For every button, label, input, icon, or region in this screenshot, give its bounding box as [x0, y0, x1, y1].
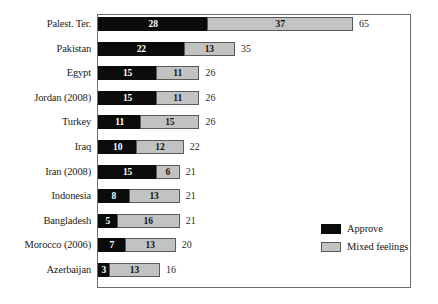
bar-segment-approve: 11 — [98, 115, 141, 129]
chart-row: Indonesia81321 — [0, 189, 438, 214]
category-label: Jordan (2008) — [0, 91, 91, 105]
bar-total-label: 22 — [190, 140, 200, 154]
bar-value-mixed-feelings: 13 — [130, 265, 139, 275]
bar-value-approve: 28 — [149, 19, 158, 29]
bar-value-mixed-feelings: 16 — [144, 216, 153, 226]
stacked-bar: 2837 — [98, 17, 354, 31]
bar-segment-approve: 5 — [98, 214, 118, 228]
chart-legend: Approve Mixed feelings — [321, 221, 408, 257]
bar-segment-approve: 15 — [98, 66, 157, 80]
bar-value-mixed-feelings: 11 — [173, 93, 182, 103]
legend-item-approve: Approve — [321, 221, 408, 236]
stacked-bar: 2213 — [98, 42, 236, 56]
legend-label-approve: Approve — [347, 223, 383, 235]
bar-value-approve: 3 — [102, 265, 107, 275]
bar-value-mixed-feelings: 15 — [165, 117, 174, 127]
category-label: Egypt — [0, 66, 91, 80]
bar-value-approve: 11 — [115, 117, 124, 127]
stacked-bar: 1511 — [98, 91, 200, 105]
bar-total-label: 35 — [241, 42, 251, 56]
stacked-bar: 1012 — [98, 140, 185, 154]
bar-segment-mixed-feelings: 12 — [136, 140, 183, 154]
bar-value-approve: 15 — [123, 167, 132, 177]
stacked-bar: 516 — [98, 214, 181, 228]
category-label: Turkey — [0, 115, 91, 129]
bar-segment-mixed-feelings: 6 — [156, 165, 180, 179]
legend-label-mixed-feelings: Mixed feelings — [347, 241, 408, 253]
bar-segment-approve: 28 — [98, 17, 208, 31]
bar-total-label: 65 — [359, 17, 369, 31]
chart-row: Iran (2008)15621 — [0, 165, 438, 190]
bar-value-mixed-feelings: 12 — [155, 142, 164, 152]
bar-value-approve: 7 — [109, 240, 114, 250]
bar-value-mixed-feelings: 13 — [205, 44, 214, 54]
bar-value-approve: 15 — [123, 68, 132, 78]
bar-value-mixed-feelings: 11 — [173, 68, 182, 78]
category-label: Pakistan — [0, 42, 91, 56]
bar-segment-approve: 22 — [98, 42, 185, 56]
bar-segment-approve: 10 — [98, 140, 137, 154]
bar-value-mixed-feelings: 13 — [146, 240, 155, 250]
bar-total-label: 26 — [205, 91, 215, 105]
bar-value-approve: 22 — [137, 44, 146, 54]
bar-value-mixed-feelings: 13 — [149, 191, 158, 201]
category-label: Morocco (2006) — [0, 238, 91, 252]
stacked-bar-chart: Palest. Ter.283765Pakistan221335Egypt151… — [0, 0, 438, 304]
chart-row: Iraq101222 — [0, 140, 438, 165]
bar-value-approve: 8 — [111, 191, 116, 201]
bar-value-mixed-feelings: 37 — [276, 19, 285, 29]
bar-segment-mixed-feelings: 13 — [129, 189, 180, 203]
legend-swatch-mixed-feelings-icon — [321, 242, 341, 252]
stacked-bar: 156 — [98, 165, 181, 179]
chart-row: Turkey111526 — [0, 115, 438, 140]
chart-row: Egypt151126 — [0, 66, 438, 91]
bar-segment-mixed-feelings: 37 — [207, 17, 353, 31]
bar-total-label: 21 — [186, 165, 196, 179]
chart-row: Palest. Ter.283765 — [0, 17, 438, 42]
category-label: Indonesia — [0, 189, 91, 203]
bar-segment-approve: 7 — [98, 238, 126, 252]
stacked-bar: 1511 — [98, 66, 200, 80]
category-label: Iraq — [0, 140, 91, 154]
legend-swatch-approve-icon — [321, 224, 341, 234]
bar-total-label: 20 — [182, 238, 192, 252]
bar-total-label: 21 — [186, 189, 196, 203]
category-label: Bangladesh — [0, 214, 91, 228]
bar-segment-mixed-feelings: 11 — [156, 66, 199, 80]
chart-row: Jordan (2008)151126 — [0, 91, 438, 116]
category-label: Palest. Ter. — [0, 17, 91, 31]
category-label: Iran (2008) — [0, 165, 91, 179]
bar-segment-mixed-feelings: 15 — [140, 115, 199, 129]
legend-item-mixed-feelings: Mixed feelings — [321, 239, 408, 254]
bar-segment-mixed-feelings: 11 — [156, 91, 199, 105]
bar-segment-mixed-feelings: 13 — [125, 238, 176, 252]
bar-segment-mixed-feelings: 16 — [117, 214, 180, 228]
chart-row: Pakistan221335 — [0, 42, 438, 67]
bar-value-approve: 15 — [123, 93, 132, 103]
stacked-bar: 313 — [98, 263, 161, 277]
bar-total-label: 26 — [205, 66, 215, 80]
bar-total-label: 26 — [205, 115, 215, 129]
chart-row: Azerbaijan31316 — [0, 263, 438, 288]
bar-segment-mixed-feelings: 13 — [184, 42, 235, 56]
stacked-bar: 1115 — [98, 115, 200, 129]
bar-total-label: 21 — [186, 214, 196, 228]
bar-segment-approve: 15 — [98, 165, 157, 179]
bar-segment-approve: 8 — [98, 189, 130, 203]
bar-segment-mixed-feelings: 13 — [109, 263, 160, 277]
category-label: Azerbaijan — [0, 263, 91, 277]
bar-segment-approve: 15 — [98, 91, 157, 105]
stacked-bar: 813 — [98, 189, 181, 203]
bar-value-mixed-feelings: 6 — [166, 167, 171, 177]
bar-total-label: 16 — [166, 263, 176, 277]
bar-value-approve: 10 — [113, 142, 122, 152]
stacked-bar: 713 — [98, 238, 177, 252]
bar-value-approve: 5 — [106, 216, 111, 226]
